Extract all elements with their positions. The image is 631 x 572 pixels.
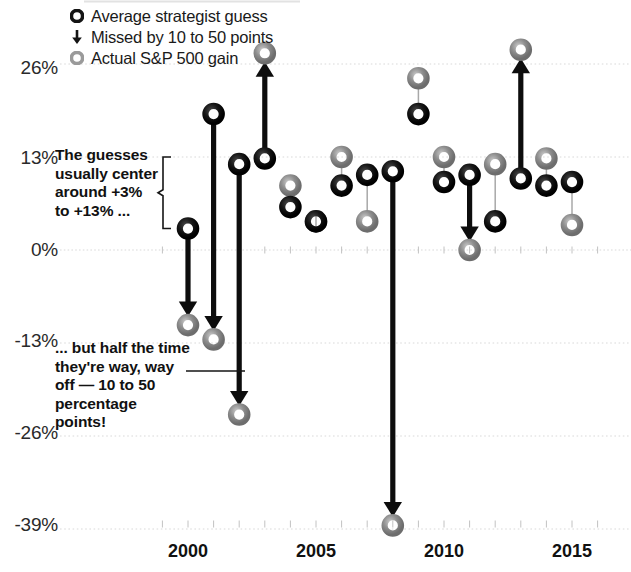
- x-axis-label-2005: 2005: [276, 541, 356, 562]
- guess-marker-2006: [333, 177, 349, 193]
- down-arrow-icon: [68, 28, 86, 46]
- guess-marker-2012: [487, 213, 503, 229]
- legend-item-guess: Average strategist guess: [68, 6, 328, 26]
- guess-marker-2007: [359, 167, 375, 183]
- guess-marker-2015: [564, 174, 580, 190]
- actual-marker-2007: [359, 213, 375, 229]
- guess-marker-2011: [461, 167, 477, 183]
- x-axis-ticks: [162, 247, 597, 528]
- guess-marker-2000: [180, 220, 196, 236]
- y-axis-label-neg13: -13%: [0, 330, 58, 352]
- actual-marker-2004: [282, 177, 298, 193]
- guess-ring-icon: [68, 7, 86, 25]
- annotation-way-off: ... but half the time they're way, way o…: [55, 339, 190, 432]
- guess-marker-2001: [205, 106, 221, 122]
- actual-ring-icon: [68, 49, 86, 67]
- annotation-center-range: The guesses usually center around +3% to…: [55, 146, 160, 220]
- actual-marker-2002: [231, 406, 247, 422]
- actual-marker-2014: [538, 150, 554, 166]
- chart-root: 26% 13% 0% -13% -26% -39% 2000 2005 2010…: [0, 0, 631, 572]
- guess-marker-2008: [385, 163, 401, 179]
- guess-marker-2010: [436, 174, 452, 190]
- y-axis-label-13: 13%: [0, 147, 58, 169]
- legend-label-actual: Actual S&P 500 gain: [91, 49, 238, 68]
- guess-marker-2002: [231, 156, 247, 172]
- legend-item-actual: Actual S&P 500 gain: [68, 48, 328, 68]
- legend-label-missed: Missed by 10 to 50 points: [91, 28, 273, 47]
- gridlines: [60, 64, 631, 529]
- guess-marker-2004: [282, 199, 298, 215]
- legend-label-guess: Average strategist guess: [91, 7, 268, 26]
- actual-marker-2010: [436, 149, 452, 165]
- actual-marker-2009: [410, 70, 426, 86]
- y-axis-label-neg39: -39%: [0, 514, 58, 536]
- guess-marker-2003: [257, 150, 273, 166]
- x-axis-label-2010: 2010: [404, 541, 484, 562]
- guess-marker-2009: [410, 106, 426, 122]
- legend-item-missed: Missed by 10 to 50 points: [68, 27, 328, 47]
- actual-marker-2015: [564, 217, 580, 233]
- miss-arrows: [179, 58, 530, 517]
- actual-marker-2012: [487, 156, 503, 172]
- chart-plot-area: [0, 0, 631, 572]
- chart-legend: Average strategist guess Missed by 10 to…: [68, 6, 328, 69]
- y-axis-label-26: 26%: [0, 57, 58, 79]
- y-axis-label-neg26: -26%: [0, 422, 58, 444]
- actual-marker-2000: [180, 317, 196, 333]
- x-axis-label-2015: 2015: [532, 541, 612, 562]
- y-axis-label-0: 0%: [0, 239, 58, 261]
- x-axis-label-2000: 2000: [148, 541, 228, 562]
- guess-marker-2014: [538, 177, 554, 193]
- guess-marker-2013: [513, 170, 529, 186]
- actual-marker-2001: [205, 331, 221, 347]
- actual-marker-2013: [513, 41, 529, 57]
